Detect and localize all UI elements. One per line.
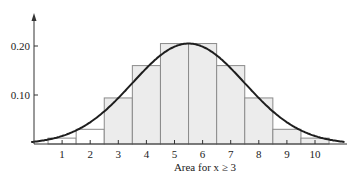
x-tick-label: 8 <box>256 148 262 160</box>
x-tick-label: 4 <box>144 148 150 160</box>
x-tick-label: 10 <box>310 148 322 160</box>
y-tick-label: 0.20 <box>11 40 31 52</box>
y-tick-label: 0.10 <box>11 89 31 101</box>
bar-5 <box>160 44 188 144</box>
x-tick-label: 3 <box>116 148 122 160</box>
histogram-bars <box>48 44 329 144</box>
bar-3 <box>104 98 132 144</box>
x-tick-label: 6 <box>200 148 206 160</box>
x-tick-label: 5 <box>172 148 178 160</box>
bar-6 <box>189 44 217 144</box>
normal-approximation-chart: 12345678910 0.100.20 Area for x ≥ 3 <box>0 0 364 183</box>
x-tick-label: 2 <box>87 148 93 160</box>
x-tick-label: 1 <box>59 148 65 160</box>
x-tick-label: 9 <box>284 148 290 160</box>
chart-canvas: 12345678910 0.100.20 Area for x ≥ 3 <box>0 0 364 183</box>
x-tick-label: 7 <box>228 148 234 160</box>
bar-8 <box>245 98 273 144</box>
x-axis-label: Area for x ≥ 3 <box>174 161 237 173</box>
